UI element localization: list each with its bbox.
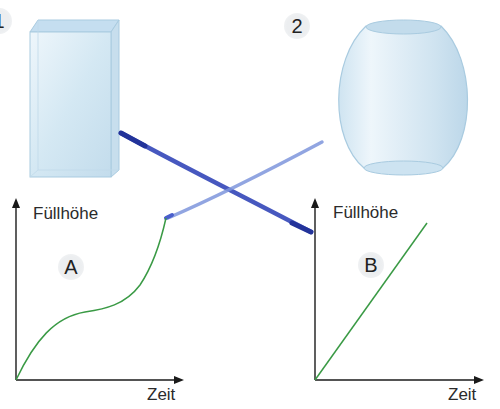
- graph-a-badge: A: [58, 254, 84, 280]
- graph-a-curve: [16, 218, 166, 380]
- graph-a-ylabel: Füllhöhe: [33, 205, 98, 222]
- graph-a-xlabel: Zeit: [147, 386, 175, 403]
- graph-b-badge: B: [358, 252, 384, 278]
- graph-b-ylabel: Füllhöhe: [333, 204, 398, 221]
- y-axis-arrow-icon: [12, 198, 20, 208]
- container-2-badge: 2: [284, 13, 310, 39]
- graph-b-xlabel: Zeit: [448, 386, 476, 403]
- graph-b-line: [315, 223, 427, 380]
- x-axis-arrow-icon: [174, 376, 184, 384]
- x-axis-arrow-icon: [474, 376, 484, 384]
- connector-line-2-to-A: [166, 142, 322, 218]
- graph-b-axes: [311, 198, 484, 384]
- y-axis-arrow-icon: [311, 198, 319, 208]
- cuboid-vessel-icon: [30, 20, 119, 177]
- barrel-vessel-icon: [339, 20, 468, 175]
- connector-line-1-to-B: [121, 133, 311, 232]
- filling-graphs-diagram: 1 2 Füllhöhe Zeit A Füllhöhe Zeit B: [0, 0, 500, 409]
- graph-a-axes: [12, 198, 184, 384]
